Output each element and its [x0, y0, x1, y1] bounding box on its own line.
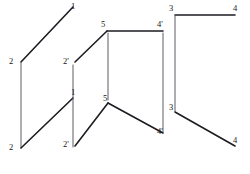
label-2p-upper: 2': [63, 57, 69, 66]
seg-3-to-4-lower: [175, 112, 235, 146]
geometric-line-diagram: 12212'2'554'4'3344: [0, 0, 250, 174]
label-1-middle: 1: [71, 88, 75, 97]
label-3-upper: 3: [169, 4, 173, 13]
line-segments-group: [21, 7, 235, 148]
label-4p-upper: 4': [157, 20, 163, 29]
seg-2p-to-5-upper: [75, 31, 107, 62]
diagram-canvas: [0, 0, 250, 174]
label-5-upper: 5: [101, 20, 105, 29]
label-1-top: 1: [71, 2, 75, 11]
seg-5-to-4p-lower: [108, 103, 163, 133]
seg-2p-to-5-lower: [75, 103, 108, 146]
label-2p-lower: 2': [63, 140, 69, 149]
label-4-lower: 4: [233, 136, 237, 145]
label-2-lower: 2: [9, 143, 13, 152]
label-2-upper: 2: [9, 57, 13, 66]
label-4-upper: 4: [233, 4, 237, 13]
label-3-lower: 3: [169, 103, 173, 112]
label-5-lower: 5: [103, 94, 107, 103]
seg-2-to-1-upper: [21, 7, 73, 62]
label-4p-lower: 4': [157, 127, 163, 136]
